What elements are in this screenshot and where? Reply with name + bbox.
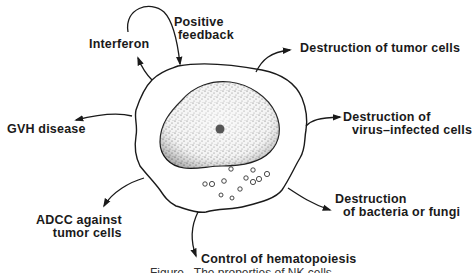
nucleolus (216, 125, 225, 134)
label-gvh: GVH disease (7, 123, 86, 136)
figure-caption: Figure . The properties of NK cells (150, 266, 332, 273)
label-line: feedback (174, 29, 234, 42)
label-destruction-tumor: Destruction of tumor cells (300, 42, 460, 55)
label-line: tumor cells (36, 227, 122, 240)
label-destruction-bacteria: Destruction of bacteria or fungi (335, 193, 460, 219)
arrow-adcc (104, 178, 144, 206)
label-interferon: Interferon (89, 38, 149, 51)
arrow-tumor-destruction (256, 50, 290, 72)
arrow-interferon (138, 58, 152, 80)
label-destruction-virus: Destruction of virus–infected cells (343, 111, 472, 137)
arrow-gvh (76, 114, 132, 120)
label-positive-feedback: Positive feedback (174, 16, 234, 42)
label-line: virus–infected cells (343, 124, 472, 137)
label-hematopoiesis: Control of hematopoiesis (201, 253, 357, 266)
arrow-hematopoiesis (192, 212, 198, 256)
arrow-virus-destruction (306, 117, 340, 126)
arrow-bacteria (288, 188, 330, 210)
label-line: of bacteria or fungi (335, 206, 460, 219)
arrow-positive-feedback (128, 6, 180, 64)
label-adcc: ADCC against tumor cells (36, 214, 122, 240)
